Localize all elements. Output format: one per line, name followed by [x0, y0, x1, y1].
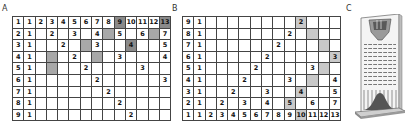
grid-cell: [284, 63, 295, 75]
grid-cell: [216, 74, 227, 86]
grid-cell: [250, 51, 261, 63]
grid-cell: [114, 40, 125, 52]
grid-cell: [318, 51, 329, 63]
grid-cell: [148, 28, 159, 40]
grid-cell: [250, 74, 261, 86]
grid-cell: [318, 74, 329, 86]
grid-cell: [228, 51, 239, 63]
grid-cell: [125, 28, 136, 40]
grid-cell: [46, 51, 57, 63]
grid-cell: [92, 51, 103, 63]
grid-row: 812: [13, 98, 171, 110]
grid-row: 112345678910111213: [13, 17, 171, 29]
grid-cell: 2: [114, 98, 125, 110]
row-label: 6: [13, 74, 24, 86]
grid-cell: [205, 40, 216, 52]
grid-cell: 2: [262, 51, 273, 63]
grid-cell: 7: [159, 28, 170, 40]
row-label: 8: [13, 98, 24, 110]
grid-cell: [159, 86, 170, 98]
grid-cell: [58, 98, 69, 110]
grid-cell: [295, 63, 306, 75]
grid-cell: 3: [114, 51, 125, 63]
grid-cell: [69, 98, 80, 110]
grid-cell: 3: [137, 63, 148, 75]
grid-cell: [284, 86, 295, 98]
grid-cell: [58, 109, 69, 121]
grid-cell: [148, 51, 159, 63]
grid-cell: 2: [92, 74, 103, 86]
grid-cell: [114, 86, 125, 98]
grid-row: 6123: [183, 51, 341, 63]
grid-cell: [307, 74, 318, 86]
grid-cell: [205, 51, 216, 63]
grid-cell: 1: [194, 109, 205, 121]
grid-cell: [216, 40, 227, 52]
grid-cell: [228, 40, 239, 52]
grid-cell: [318, 63, 329, 75]
grid-cell: 1: [24, 28, 35, 40]
grid-row: 5123: [13, 63, 171, 75]
grid-cell: [250, 17, 261, 29]
grid-cell: [46, 98, 57, 110]
grid-cell: [239, 40, 250, 52]
grid-cell: [307, 40, 318, 52]
grid-cell: [103, 63, 114, 75]
row-label: 9: [183, 17, 194, 29]
grid-cell: 1: [194, 63, 205, 75]
grid-cell: 5: [69, 17, 80, 29]
grid-cell: 5: [114, 28, 125, 40]
panel-b-label: B: [172, 4, 178, 13]
grid-cell: [318, 40, 329, 52]
grid-cell: [284, 40, 295, 52]
grid-cell: [58, 86, 69, 98]
grid-cell: [114, 109, 125, 121]
grid-cell: [250, 28, 261, 40]
grid-cell: [114, 74, 125, 86]
grid-cell: [137, 51, 148, 63]
row-label: 5: [183, 63, 194, 75]
grid-cell: 4: [159, 51, 170, 63]
grid-cell: 2: [80, 63, 91, 75]
grid-cell: [205, 86, 216, 98]
grid-cell: 1: [194, 98, 205, 110]
grid-cell: 6: [80, 17, 91, 29]
grid-cell: [137, 109, 148, 121]
grid-cell: [307, 28, 318, 40]
panel-c-label: C: [346, 4, 352, 13]
grid-cell: [273, 51, 284, 63]
row-label: 8: [183, 28, 194, 40]
grid-cell: [92, 109, 103, 121]
grid-cell: [262, 63, 273, 75]
grid-cell: 12: [318, 109, 329, 121]
grid-cell: [250, 86, 261, 98]
grid-cell: 1: [24, 40, 35, 52]
grid-cell: 2: [69, 51, 80, 63]
grid-cell: [307, 86, 318, 98]
grid-row: 912: [183, 17, 341, 29]
row-label: 7: [13, 86, 24, 98]
grid-cell: [228, 63, 239, 75]
grid-cell: 3: [307, 63, 318, 75]
grid-cell: [46, 74, 57, 86]
grid-cell: [80, 40, 91, 52]
grid-cell: 4: [92, 28, 103, 40]
grid-cell: [329, 63, 340, 75]
grid-cell: [239, 17, 250, 29]
grid-cell: [35, 86, 46, 98]
grid-a: 1123456789101112132123456731234541234512…: [12, 16, 171, 121]
grid-cell: 12: [148, 17, 159, 29]
grid-cell: 6: [250, 109, 261, 121]
grid-cell: [80, 98, 91, 110]
grid-cell: [228, 28, 239, 40]
grid-cell: [216, 17, 227, 29]
grid-cell: [159, 98, 170, 110]
grid-cell: [80, 51, 91, 63]
grid-cell: 2: [125, 109, 136, 121]
grid-cell: [35, 109, 46, 121]
grid-cell: [273, 98, 284, 110]
grid-cell: [329, 40, 340, 52]
grid-cell: 2: [284, 28, 295, 40]
grid-cell: 2: [103, 86, 114, 98]
grid-cell: [148, 74, 159, 86]
